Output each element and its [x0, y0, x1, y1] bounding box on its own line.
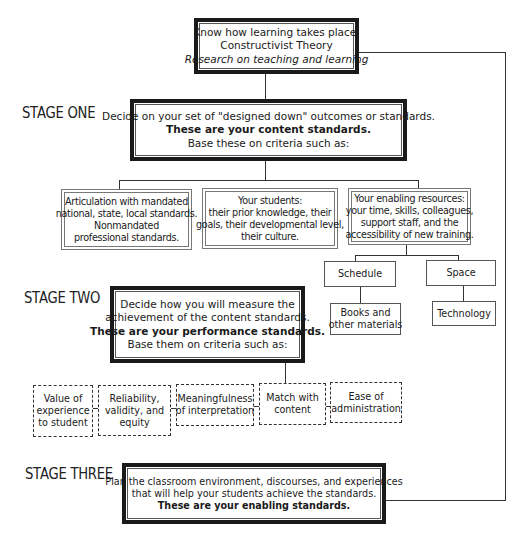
content-standards-box: Decide on your set of "designed down" ou…: [130, 99, 407, 161]
criteria-standards-line3: Nonmandated: [94, 220, 159, 232]
learning-theory-box: Know how learning takes place. Construct…: [194, 18, 359, 74]
criterion-ease-line1: Ease of: [348, 391, 383, 403]
connector-stage1-down: [265, 160, 266, 180]
schedule-box: Schedule: [324, 261, 396, 287]
criterion-reliability-box: Reliability, validity, and equity: [98, 385, 171, 436]
criteria-students-line2: their prior knowledge, their: [208, 207, 331, 219]
stage-two-line3: These are your performance standards.: [90, 325, 325, 339]
schedule-label: Schedule: [338, 268, 382, 280]
stage-three-label: STAGE THREE: [25, 465, 113, 483]
connector-stage1-branch: [119, 180, 418, 181]
criterion-ease-box: Ease of administration: [330, 382, 402, 423]
criteria-resources-line4: accessibility of new training.: [346, 229, 474, 241]
criteria-students-line4: their culture.: [241, 231, 299, 243]
criterion-value-box: Value of experience to student: [33, 385, 93, 437]
criterion-meaningfulness-line1: Meaningfulness: [177, 393, 252, 405]
criterion-value-line3: to student: [38, 417, 87, 429]
books-box: Books and other materials: [330, 303, 401, 335]
criteria-students-box: Your students: their prior knowledge, th…: [202, 188, 338, 249]
criterion-match-line1: Match with: [266, 392, 319, 404]
criteria-standards-line4: professional standards.: [74, 232, 179, 244]
stage-one-label: STAGE ONE: [22, 104, 95, 122]
criterion-meaningfulness-line2: of interpretation: [176, 405, 254, 417]
top-box-line3: Research on teaching and learning: [185, 53, 369, 67]
enabling-standards-box: Plan the classroom environment, discours…: [122, 463, 386, 524]
stage-two-label: STAGE TWO: [24, 289, 100, 307]
technology-box: Technology: [432, 301, 496, 326]
criteria-resources-line1: Your enabling resources:: [354, 193, 465, 205]
stage-three-line2: that will help your students achieve the…: [132, 488, 376, 500]
connector-space-to-technology: [463, 285, 464, 302]
connector-resources-branch: [355, 255, 458, 256]
criteria-resources-line3: support staff, and the: [361, 217, 459, 229]
criteria-resources-line2: your time, skills, colleagues,: [346, 205, 473, 217]
connector-stage2-down: [285, 362, 286, 385]
stage-one-line1: Decide on your set of "designed down" ou…: [102, 110, 435, 124]
stage-two-line4: Base them on criteria such as:: [127, 338, 287, 352]
stage-one-line2: These are your content standards.: [166, 123, 371, 137]
connector-feedback-top-right: [358, 52, 506, 53]
criterion-reliability-line2: validity, and: [105, 405, 164, 417]
performance-standards-box: Decide how you will measure the achievem…: [110, 286, 305, 363]
connector-schedule-to-books: [360, 286, 361, 304]
space-box: Space: [426, 260, 496, 286]
criteria-resources-box: Your enabling resources: your time, skil…: [348, 188, 471, 245]
stage-three-line3: These are your enabling standards.: [158, 500, 350, 512]
criteria-standards-box: Articulation with mandated national, sta…: [61, 189, 192, 250]
technology-label: Technology: [437, 308, 491, 320]
criterion-ease-line2: administration: [331, 403, 401, 415]
connector-feedback-bottom: [384, 500, 506, 501]
criterion-value-line2: experience: [36, 405, 89, 417]
criterion-reliability-line1: Reliability,: [110, 393, 160, 405]
top-box-line2: Constructivist Theory: [220, 39, 332, 53]
criterion-value-line1: Value of: [44, 393, 83, 405]
stage-one-line3: Base these on criteria such as:: [188, 137, 350, 151]
criteria-students-line1: Your students:: [238, 195, 302, 207]
connector-top-to-stage1: [265, 73, 266, 99]
criteria-standards-line2: national, state, local standards.: [56, 208, 198, 220]
space-label: Space: [446, 267, 475, 279]
stage-two-line1: Decide how you will measure the: [120, 298, 294, 312]
criterion-match-box: Match with content: [259, 383, 326, 425]
stage-three-line1: Plan the classroom environment, discours…: [105, 476, 402, 488]
criterion-meaningfulness-box: Meaningfulness of interpretation: [176, 384, 254, 426]
books-line1: Books and: [341, 307, 391, 319]
stage-two-line2: achievement of the content standards.: [105, 311, 310, 325]
criteria-students-line3: goals, their developmental level,: [196, 219, 344, 231]
books-line2: other materials: [329, 319, 403, 331]
criterion-reliability-line3: equity: [119, 417, 149, 429]
top-box-line1: Know how learning takes place.: [193, 26, 359, 40]
criterion-match-line2: content: [274, 404, 311, 416]
criteria-standards-line1: Articulation with mandated: [65, 196, 188, 208]
connector-feedback-right-vertical: [505, 52, 506, 501]
